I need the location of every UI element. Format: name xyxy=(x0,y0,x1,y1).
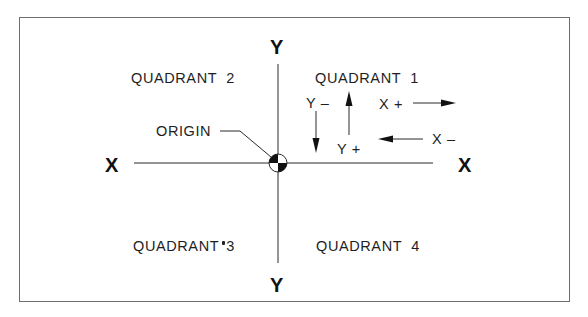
quadrant-3-number: 3 xyxy=(226,238,235,254)
quadrant-4-label: QUADRANT 4 xyxy=(316,239,420,254)
y-axis-bottom-label: Y xyxy=(270,275,283,295)
y-axis-top-label: Y xyxy=(270,37,283,57)
quadrant-2-label: QUADRANT 2 xyxy=(131,71,235,86)
x-plus-label: X + xyxy=(379,97,403,112)
quadrant-3-text: QUADRANT xyxy=(133,238,219,254)
quadrant-1-label: QUADRANT 1 xyxy=(315,71,419,86)
y-plus-arrow-icon xyxy=(346,91,353,135)
y-plus-label: Y + xyxy=(337,142,361,157)
x-axis-right-label: X xyxy=(458,155,471,175)
origin-leader-line xyxy=(220,131,271,157)
origin-symbol-icon xyxy=(269,154,287,172)
x-minus-arrow-icon xyxy=(378,136,423,143)
y-minus-arrow-icon xyxy=(313,111,320,153)
scan-artifact-mark xyxy=(222,241,225,245)
x-minus-label: X – xyxy=(432,132,456,147)
y-minus-label: Y – xyxy=(306,96,329,111)
axes-drawing xyxy=(0,0,588,317)
origin-label: ORIGIN xyxy=(156,124,211,139)
x-axis-left-label: X xyxy=(105,155,118,175)
x-plus-arrow-icon xyxy=(413,100,456,107)
quadrant-3-label: QUADRANT3 xyxy=(133,239,235,254)
